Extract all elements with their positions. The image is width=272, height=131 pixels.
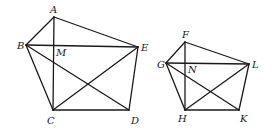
segment-gh (166, 63, 185, 110)
point-label-h: H (177, 113, 187, 124)
point-label-f: F (181, 29, 190, 40)
segment-ac (53, 17, 54, 110)
pentagon-fghkl: FGNLHK (157, 29, 259, 124)
point-label-n: N (187, 64, 198, 75)
segment-de (129, 47, 138, 110)
point-label-g: G (157, 59, 165, 70)
segment-gl (166, 63, 249, 64)
segment-bd (26, 45, 129, 110)
point-label-a: A (49, 4, 57, 15)
segment-gk (166, 63, 239, 110)
point-label-l: L (251, 59, 259, 70)
segment-ab (26, 17, 54, 45)
geometry-diagram: ABMECD FGNLHK (0, 0, 272, 131)
segment-lf (185, 42, 249, 64)
pentagon-abcde: ABMECD (16, 4, 149, 126)
point-label-m: M (55, 47, 67, 58)
point-label-c: C (47, 115, 55, 126)
point-label-e: E (140, 42, 149, 53)
point-label-b: B (16, 40, 24, 51)
segment-fg (166, 42, 185, 63)
segment-be (26, 45, 138, 47)
point-label-k: K (239, 113, 248, 124)
segment-bc (26, 45, 53, 110)
point-label-d: D (130, 115, 139, 126)
segment-ea (54, 17, 138, 47)
